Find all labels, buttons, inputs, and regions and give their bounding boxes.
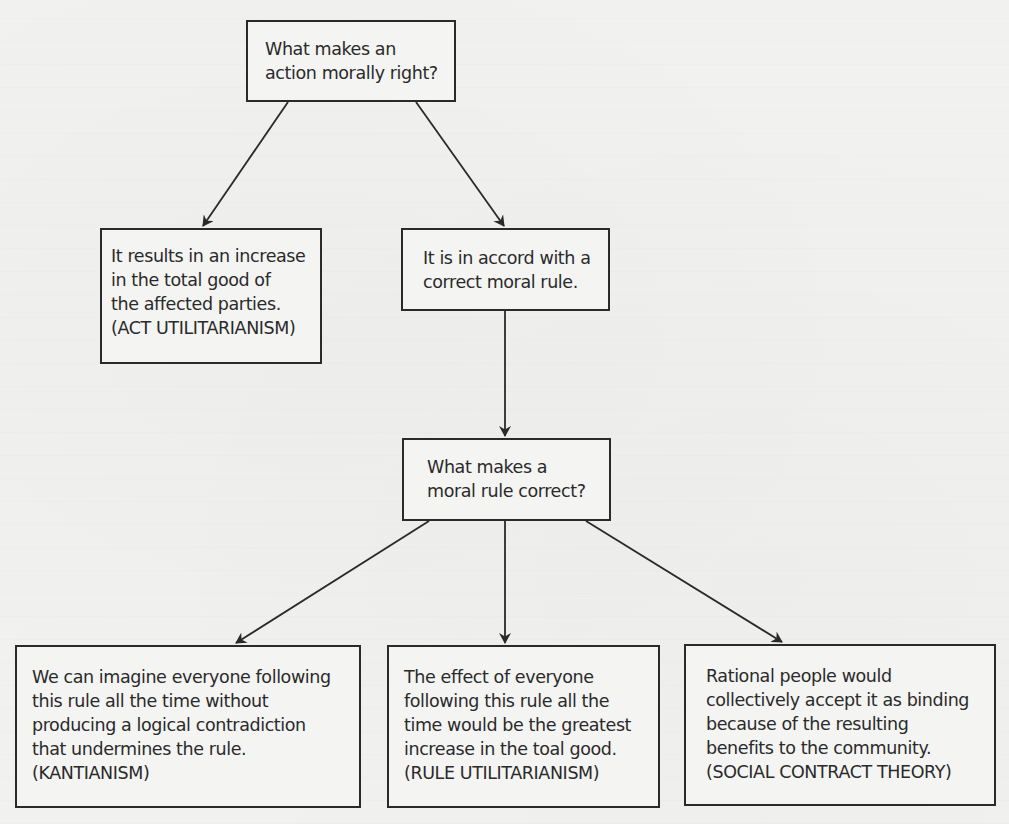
node-theory-label: (KANTIANISM) (32, 761, 359, 785)
node-text-line: this rule all the time without (32, 689, 359, 713)
node-text-line: The effect of everyone (404, 665, 658, 689)
node-text-line: following this rule all the (404, 689, 658, 713)
node-text-line: What makes a (427, 455, 609, 479)
node-action-morally-right-question: What makes an action morally right? (246, 20, 456, 102)
arrow-rule-question-to-kantianism (236, 521, 429, 643)
node-kantianism: We can imagine everyone following this r… (15, 645, 361, 808)
node-theory-label: (ACT UTILITARIANISM) (111, 316, 320, 340)
node-text-line: that undermines the rule. (32, 737, 359, 761)
arrow-root-to-act-util (203, 102, 288, 226)
node-text-line: correct moral rule. (423, 270, 608, 294)
node-text-line: It is in accord with a (423, 246, 608, 270)
node-moral-rule-correct-question: What makes a moral rule correct? (402, 438, 611, 521)
node-text-line: because of the resulting (706, 712, 994, 736)
node-text-line: increase in the toal good. (404, 737, 658, 761)
node-theory-label: (SOCIAL CONTRACT THEORY) (706, 760, 994, 784)
node-text-line: action morally right? (265, 61, 454, 85)
node-text-line: What makes an (265, 37, 454, 61)
arrow-rule-question-to-social-contract (586, 521, 782, 642)
node-theory-label: (RULE UTILITARIANISM) (404, 761, 658, 785)
node-text-line: the affected parties. (111, 292, 320, 316)
node-text-line: moral rule correct? (427, 479, 609, 503)
node-text-line: benefits to the community. (706, 736, 994, 760)
node-rule-utilitarianism: The effect of everyone following this ru… (387, 645, 660, 808)
node-text-line: Rational people would (706, 664, 994, 688)
node-text-line: It results in an increase (111, 244, 320, 268)
node-social-contract-theory: Rational people would collectively accep… (684, 644, 996, 806)
node-text-line: collectively accept it as binding (706, 688, 994, 712)
node-text-line: producing a logical contradiction (32, 713, 359, 737)
node-text-line: in the total good of (111, 268, 320, 292)
arrow-root-to-correct-rule (416, 102, 504, 226)
node-act-utilitarianism: It results in an increase in the total g… (100, 228, 322, 364)
node-text-line: time would be the greatest (404, 713, 658, 737)
node-correct-moral-rule: It is in accord with a correct moral rul… (401, 228, 610, 311)
node-text-line: We can imagine everyone following (32, 665, 359, 689)
